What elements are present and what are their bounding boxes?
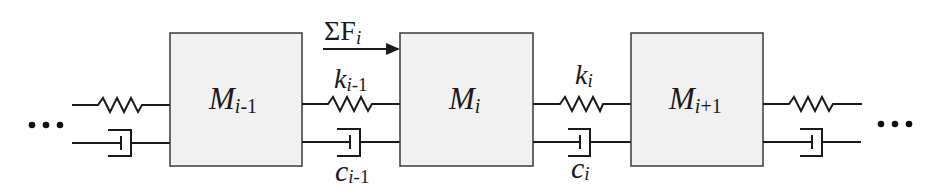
ellipsis-right bbox=[878, 121, 913, 128]
damper-c-i: ci bbox=[533, 129, 631, 184]
arrowhead-icon bbox=[386, 43, 400, 55]
mass-m-i-plus-1: Mi+1 bbox=[631, 33, 763, 166]
ellipsis-left bbox=[29, 122, 64, 129]
spring-k-i: ki bbox=[533, 59, 631, 111]
spring-outer-left bbox=[72, 98, 170, 112]
damper-c-i-minus-1: ci-1 bbox=[302, 129, 400, 187]
svg-text:ki: ki bbox=[575, 59, 593, 91]
svg-text:ki-1: ki-1 bbox=[334, 63, 368, 95]
damper-outer-right bbox=[763, 129, 861, 156]
mass-m-i: Mi bbox=[400, 33, 533, 166]
spring-outer-right bbox=[763, 97, 862, 111]
svg-text:ΣFi: ΣFi bbox=[324, 15, 361, 48]
mass-spring-damper-diagram: Mi-1 ki-1 ci-1 ΣFi Mi ki bbox=[0, 0, 942, 194]
damper-outer-left bbox=[72, 130, 170, 156]
spring-k-i-minus-1: ki-1 bbox=[302, 63, 400, 111]
force-arrow-sum-f-i: ΣFi bbox=[323, 15, 400, 55]
svg-text:ci-1: ci-1 bbox=[335, 154, 369, 187]
mass-m-i-minus-1: Mi-1 bbox=[170, 33, 302, 166]
